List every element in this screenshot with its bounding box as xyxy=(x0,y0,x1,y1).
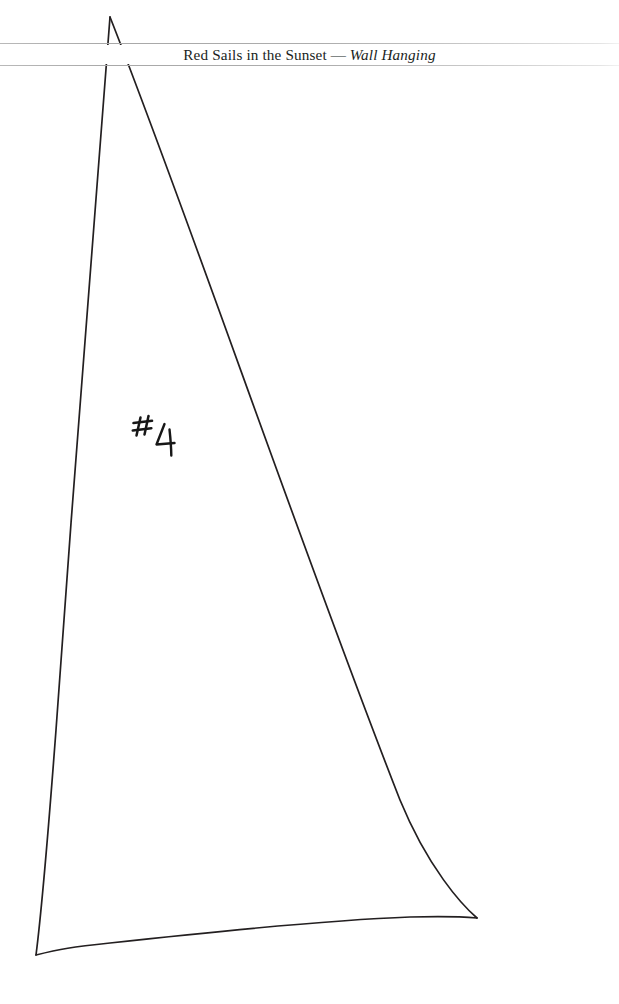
sail-luff-edge xyxy=(36,17,110,955)
sail-foot-edge xyxy=(36,917,477,955)
pattern-page: Red Sails in the Sunset — Wall Hanging xyxy=(0,0,619,1004)
sail-leech-edge xyxy=(110,17,477,918)
sail-outline-svg xyxy=(0,0,619,1004)
handwritten-hash-four-icon xyxy=(131,408,191,466)
piece-number-annotation xyxy=(131,408,191,466)
sail-pattern-figure xyxy=(0,0,619,1004)
